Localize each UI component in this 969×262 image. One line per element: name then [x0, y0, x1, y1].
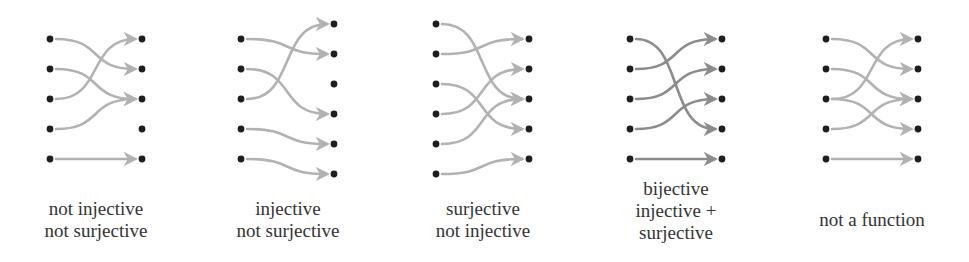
mapping-arrow — [442, 39, 522, 54]
caption-not-a-function: not a function — [782, 209, 962, 231]
domain-dot — [433, 171, 440, 178]
mapping-arrow — [636, 99, 715, 129]
mapping-arrow — [247, 69, 327, 114]
codomain-dot — [331, 81, 338, 88]
mapping-arrow — [832, 69, 911, 99]
codomain-dot — [331, 21, 338, 28]
codomain-dot — [331, 141, 338, 148]
codomain-dot — [139, 126, 146, 133]
domain-dot — [627, 156, 634, 163]
domain-dot — [47, 96, 54, 103]
diagram-not-injective-not-surjective — [47, 36, 146, 163]
diagram-not-a-function — [823, 36, 922, 163]
mapping-arrow — [442, 159, 522, 174]
domain-dot — [823, 66, 830, 73]
mapping-arrow — [832, 99, 911, 129]
diagram-bijective — [627, 36, 726, 163]
codomain-dot — [139, 36, 146, 43]
domain-dot — [627, 66, 634, 73]
codomain-dot — [139, 96, 146, 103]
domain-dot — [238, 156, 245, 163]
caption-line: surjective — [586, 222, 766, 244]
mapping-arrow — [636, 39, 715, 69]
codomain-dot — [331, 171, 338, 178]
codomain-dot — [915, 156, 922, 163]
domain-dot — [433, 81, 440, 88]
codomain-dot — [331, 111, 338, 118]
codomain-dot — [915, 96, 922, 103]
codomain-dot — [915, 36, 922, 43]
codomain-dot — [719, 96, 726, 103]
mapping-arrow — [56, 39, 135, 69]
domain-dot — [238, 96, 245, 103]
mapping-arrow — [636, 69, 715, 99]
mapping-arrow — [247, 129, 327, 144]
domain-dot — [238, 66, 245, 73]
mapping-arrow — [442, 24, 522, 99]
caption-line: bijective — [586, 178, 766, 200]
domain-dot — [823, 36, 830, 43]
mapping-arrow — [247, 24, 327, 99]
mapping-arrow — [832, 39, 911, 69]
mapping-arrow — [56, 69, 135, 99]
caption-line: not injective — [393, 220, 573, 242]
caption-line: not injective — [6, 198, 186, 220]
domain-dot — [433, 111, 440, 118]
domain-dot — [627, 126, 634, 133]
domain-dot — [823, 96, 830, 103]
codomain-dot — [719, 36, 726, 43]
caption-line: not surjective — [6, 220, 186, 242]
codomain-dot — [915, 126, 922, 133]
mapping-arrow — [247, 39, 327, 54]
caption-line: not a function — [782, 209, 962, 231]
domain-dot — [47, 156, 54, 163]
domain-dot — [627, 96, 634, 103]
caption-line: surjective — [393, 198, 573, 220]
codomain-dot — [526, 126, 533, 133]
caption-not-injective-not-surjective: not injective not surjective — [6, 198, 186, 242]
codomain-dot — [139, 156, 146, 163]
domain-dot — [433, 51, 440, 58]
caption-line: injective + — [586, 200, 766, 222]
domain-dot — [47, 126, 54, 133]
codomain-dot — [526, 156, 533, 163]
domain-dot — [433, 21, 440, 28]
caption-bijective: bijective injective + surjective — [586, 178, 766, 244]
codomain-dot — [526, 96, 533, 103]
codomain-dot — [331, 51, 338, 58]
codomain-dot — [139, 66, 146, 73]
codomain-dot — [719, 126, 726, 133]
domain-dot — [47, 66, 54, 73]
caption-surjective-not-injective: surjective not injective — [393, 198, 573, 242]
caption-line: not surjective — [198, 220, 378, 242]
diagram-surjective-not-injective — [433, 21, 533, 178]
codomain-dot — [526, 36, 533, 43]
caption-line: injective — [198, 198, 378, 220]
domain-dot — [627, 36, 634, 43]
codomain-dot — [719, 66, 726, 73]
diagram-injective-not-surjective — [238, 21, 338, 178]
domain-dot — [433, 141, 440, 148]
codomain-dot — [719, 156, 726, 163]
codomain-dot — [915, 66, 922, 73]
caption-injective-not-surjective: injective not surjective — [198, 198, 378, 242]
domain-dot — [238, 126, 245, 133]
domain-dot — [47, 36, 54, 43]
mapping-arrow — [247, 159, 327, 174]
domain-dot — [823, 156, 830, 163]
domain-dot — [823, 126, 830, 133]
codomain-dot — [526, 66, 533, 73]
domain-dot — [238, 36, 245, 43]
mapping-arrow — [56, 99, 135, 129]
